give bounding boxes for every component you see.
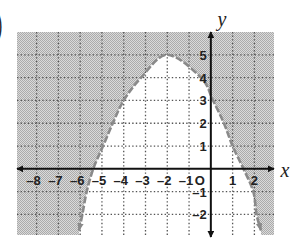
origin-label: O [195,173,205,188]
y-tick-label: –2 [192,207,206,222]
x-tick-label: –3 [135,173,149,188]
y-tick-label: 5 [200,48,207,63]
x-tick-label: –1 [179,173,193,188]
x-tick-label: 2 [251,173,258,188]
figure: ) –8–7–6–5–4–3–2–112 54321–1–2 O x y [0,0,306,250]
y-tick-label: 1 [200,139,207,154]
y-axis-label: y [215,8,226,31]
x-tick-label: –2 [157,173,171,188]
x-tick-label: –4 [113,173,128,188]
x-tick-label: –5 [92,173,106,188]
graph: –8–7–6–5–4–3–2–112 54321–1–2 O x y [0,0,306,250]
y-tick-label: 4 [200,71,208,86]
y-tick-label: 3 [200,93,207,108]
x-tick-label: 1 [229,173,236,188]
x-axis-label: x [280,159,290,181]
y-tick-label: 2 [200,116,207,131]
x-tick-label: –6 [70,173,84,188]
x-tick-label: –8 [26,173,40,188]
x-tick-label: –7 [48,173,62,188]
